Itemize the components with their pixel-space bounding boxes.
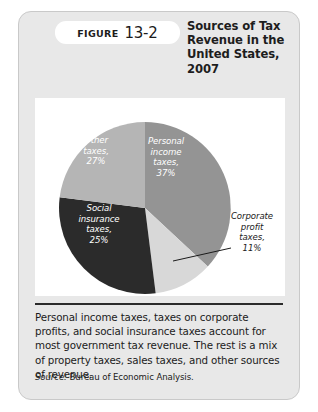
source-prefix: Source: <box>35 372 67 382</box>
figure-caption: Personal income taxes, taxes on corporat… <box>35 310 285 381</box>
pie-chart-panel: Personal income taxes, 37% Other taxes, … <box>35 98 285 296</box>
figure-title: Sources of Tax Revenue in the United Sta… <box>187 19 297 76</box>
figure-card: FIGURE 13-2 Sources of Tax Revenue in th… <box>18 11 300 400</box>
pie-label-personal-income: Personal income taxes, 37% <box>135 136 197 178</box>
figure-number-tab: FIGURE 13-2 <box>55 21 180 44</box>
figure-label-word: FIGURE <box>77 26 118 39</box>
pie-label-other-taxes: Other taxes, 27% <box>70 135 122 167</box>
caption-divider <box>35 303 283 305</box>
figure-header: FIGURE 13-2 Sources of Tax Revenue in th… <box>19 12 299 89</box>
pie-label-corporate-profit: Corporate profit taxes, 11% <box>221 211 283 253</box>
pie-chart <box>35 98 285 296</box>
figure-source: Source: Bureau of Economic Analysis. <box>35 372 285 382</box>
pie-label-social-insurance: Social insurance taxes, 25% <box>66 203 132 245</box>
source-text: Bureau of Economic Analysis. <box>70 372 194 382</box>
page-margin <box>0 0 9 412</box>
figure-number: 13-2 <box>124 24 157 42</box>
